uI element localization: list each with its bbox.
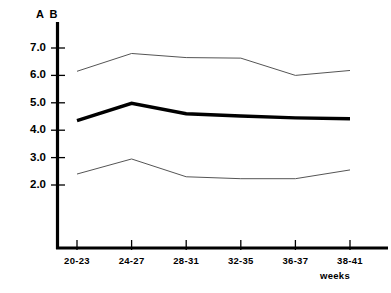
y-axis-tick-label: 5.0 (16, 97, 46, 109)
series-line-upper-limit (77, 53, 350, 75)
x-axis-tick-label: 38-41 (322, 256, 378, 266)
x-axis-title: weeks (320, 271, 350, 281)
y-axis-label: A B (36, 9, 59, 20)
x-axis-tick-label: 28-31 (158, 256, 214, 266)
y-axis-tick-label: 3.0 (16, 152, 46, 164)
chart-container: A B 7.06.05.04.03.02.0 20-2324-2728-3132… (0, 0, 391, 293)
x-axis-tick-label: 20-23 (49, 256, 105, 266)
chart-plot-area (0, 0, 391, 293)
y-axis-tick-label: 2.0 (16, 179, 46, 191)
x-axis-tick-label: 24-27 (104, 256, 160, 266)
y-axis-tick-label: 6.0 (16, 69, 46, 81)
series-line-lower-limit (77, 159, 350, 179)
chart-series-lines (77, 53, 350, 178)
y-axis-tick-label: 7.0 (16, 42, 46, 54)
x-axis-tick-label: 32-35 (213, 256, 269, 266)
series-line-mean (77, 103, 350, 120)
x-axis-tick-label: 36-37 (267, 256, 323, 266)
y-axis-tick-label: 4.0 (16, 124, 46, 136)
